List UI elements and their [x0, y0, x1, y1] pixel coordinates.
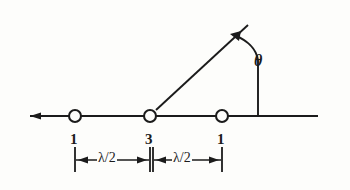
ray-line [156, 25, 248, 110]
spacing-label-1: λ/2 [97, 150, 117, 166]
element-node-2 [144, 110, 156, 122]
element-node-1 [69, 110, 81, 122]
spacing-label-2: λ/2 [172, 150, 192, 166]
dimension-arrow-left-2 [156, 157, 166, 164]
element-label-1: 1 [70, 131, 78, 148]
antenna-array-figure: 1 3 1 λ/2 λ/2 θ [0, 0, 350, 190]
element-node-3 [216, 110, 228, 122]
axis-left-arrowhead [30, 112, 41, 119]
dimension-arrow-right-2 [209, 157, 219, 164]
theta-label: θ [254, 52, 262, 70]
direction-ray [156, 25, 248, 110]
dimension-arrow-left-1 [78, 157, 88, 164]
dimension-arrow-right-1 [137, 157, 147, 164]
element-label-3: 1 [217, 131, 225, 148]
element-label-2: 3 [145, 131, 153, 148]
